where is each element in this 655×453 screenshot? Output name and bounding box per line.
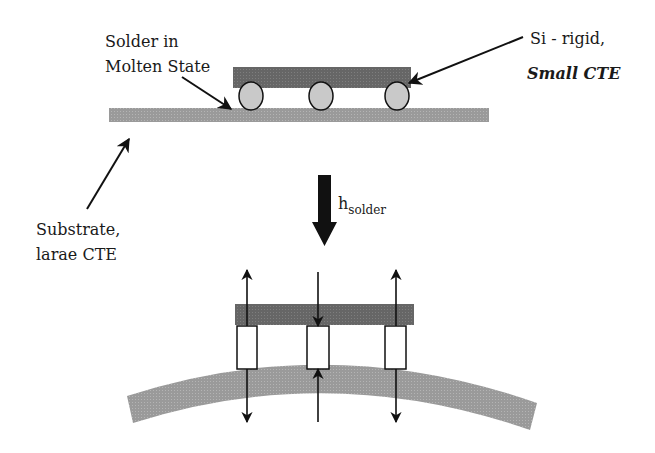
solder-ball [309,82,333,110]
solder-joint-center [307,326,329,369]
si-pointer-arrow-icon [409,37,523,83]
solder-pointer-arrow-icon [182,77,231,109]
solder-joint-right [385,326,406,369]
solder-label-line1: Solder in [105,32,179,51]
solder-ball [385,82,409,110]
substrate-label-line2: larae CTE [36,245,117,264]
warped-substrate [127,365,537,430]
down-arrow-icon [312,175,337,246]
h-solder-label: hsolder [338,194,386,217]
solder-warpage-diagram: Solder in Molten State Si - rigid, Small… [0,0,655,453]
substrate-label-line1: Substrate, [36,220,120,239]
solder-ball [239,82,263,110]
si-label-line1: Si - rigid, [530,29,605,48]
solder-joint-left [237,326,257,369]
bottom-panel [127,270,537,430]
solder-label-line2: Molten State [105,57,210,76]
si-die-bottom [235,304,414,325]
cooling-transition: hsolder [312,175,386,246]
substrate-flat [109,108,489,122]
substrate-pointer-arrow-icon [87,139,129,209]
si-label-line2: Small CTE [527,64,621,83]
